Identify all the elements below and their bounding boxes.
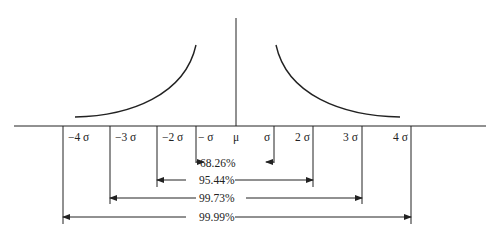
- interval-99-99-label: 99.99%: [199, 211, 235, 223]
- label-plus-2-sigma: 2 σ: [295, 131, 311, 143]
- normal-distribution-diagram: −4 σ −3 σ −2 σ − σ μ σ 2 σ 3 σ 4 σ 68.26…: [0, 0, 496, 239]
- label-minus-4-sigma: −4 σ: [68, 131, 90, 143]
- label-plus-1-sigma: σ: [264, 131, 271, 143]
- label-minus-2-sigma: −2 σ: [162, 131, 184, 143]
- right-tail-curve: [276, 45, 400, 117]
- left-tail-curve: [75, 45, 196, 117]
- label-minus-3-sigma: −3 σ: [115, 131, 137, 143]
- label-plus-4-sigma: 4 σ: [393, 131, 409, 143]
- interval-95-label: 95.44%: [199, 174, 235, 186]
- label-plus-3-sigma: 3 σ: [343, 131, 359, 143]
- label-minus-1-sigma: − σ: [198, 131, 214, 143]
- interval-68-label: 68.26%: [200, 157, 236, 169]
- interval-99-73-label: 99.73%: [199, 192, 235, 204]
- label-mu: μ: [233, 131, 239, 144]
